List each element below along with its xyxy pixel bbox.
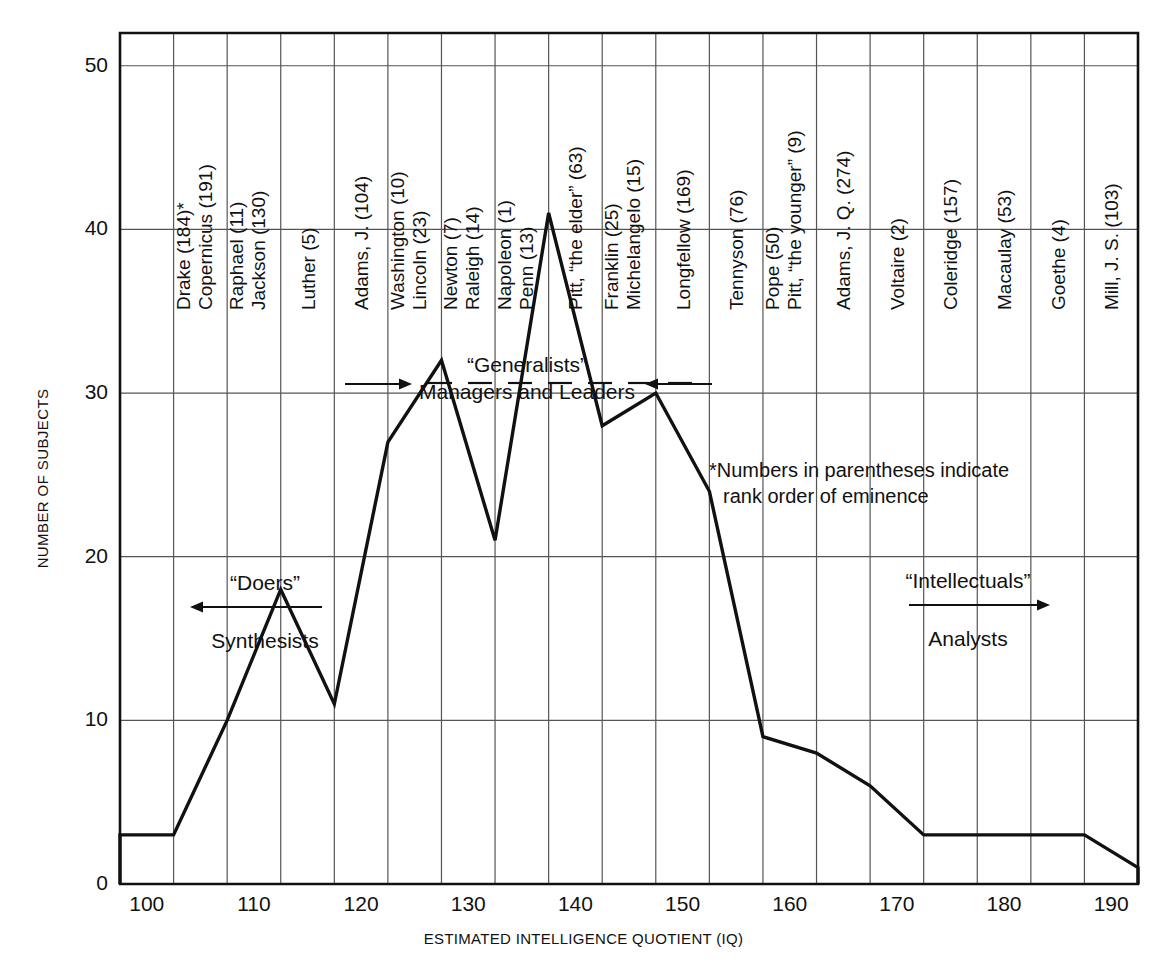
column-label-3-0: Adams, J. (104): [351, 176, 372, 310]
column-label-16-0: Goethe (4): [1048, 219, 1069, 310]
column-label-0-0: Drake (184)*: [173, 202, 194, 310]
intellectuals-title: “Intellectuals”: [906, 569, 1031, 592]
generalists-title: “Generalists”: [467, 353, 587, 376]
histogram-plot: Drake (184)*Copernicus (191)Raphael (11)…: [0, 0, 1167, 970]
column-label-7-0: Pitt, “the elder” (63): [565, 146, 586, 310]
column-label-5-0: Newton (7): [440, 217, 461, 310]
doers-arrowhead: [190, 602, 203, 613]
intellectuals-arrowhead: [1037, 600, 1050, 611]
column-label-10-0: Tennyson (76): [726, 190, 747, 310]
column-label-1-0: Raphael (11): [226, 202, 247, 310]
annotations-layer: “Generalists”Managers and Leaders“Doers”…: [190, 353, 1050, 652]
column-label-2-0: Luther (5): [298, 228, 319, 310]
doers-subtitle: Synthesists: [211, 629, 318, 652]
column-label-0-1: Copernicus (191): [195, 164, 216, 310]
column-label-11-0: Pope (50): [762, 227, 783, 310]
column-label-13-0: Voltaire (2): [887, 218, 908, 310]
generalists-left-arrowhead: [399, 379, 412, 390]
footnote-line-1: *Numbers in parentheses indicate: [709, 459, 1009, 481]
column-label-9-0: Longfellow (169): [673, 170, 694, 310]
column-label-15-0: Macaulay (53): [994, 190, 1015, 310]
histogram-step-line: [120, 213, 1138, 884]
column-label-4-0: Washington (10): [387, 171, 408, 310]
column-label-1-1: Jackson (130): [248, 191, 269, 310]
column-label-11-1: Pitt, “the younger” (9): [784, 130, 805, 310]
column-label-6-1: Penn (13): [516, 227, 537, 310]
column-label-5-1: Raleigh (14): [462, 207, 483, 311]
doers-title: “Doers”: [230, 571, 300, 594]
column-label-8-0: Franklin (25): [601, 203, 622, 310]
column-label-6-0: Napoleon (1): [494, 200, 515, 310]
footnote-line-2: rank order of eminence: [723, 485, 929, 507]
column-label-12-0: Adams, J. Q. (274): [833, 151, 854, 310]
chart-root: NUMBER OF SUBJECTS ESTIMATED INTELLIGENC…: [0, 0, 1167, 970]
intellectuals-subtitle: Analysts: [928, 627, 1007, 650]
column-label-4-1: Lincoln (23): [409, 211, 430, 310]
column-label-8-1: Michelangelo (15): [623, 159, 644, 310]
column-label-17-0: Mill, J. S. (103): [1101, 183, 1122, 310]
column-label-14-0: Coleridge (157): [940, 179, 961, 310]
column-name-labels: Drake (184)*Copernicus (191)Raphael (11)…: [173, 130, 1123, 310]
